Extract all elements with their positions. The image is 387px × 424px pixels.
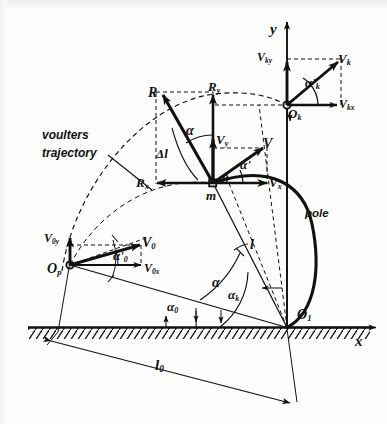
delta-l-label: Δl [156, 147, 168, 160]
length-l0-dimension [47, 329, 297, 403]
x-axis-label: x [355, 334, 363, 349]
initial-velocity-y-label: V0y [44, 232, 59, 245]
pole-curve [213, 176, 316, 328]
velocity-vector-label: V [263, 137, 272, 151]
reaction-vector-label: R [148, 86, 157, 100]
top-velocity-x-label: Vkx [339, 98, 354, 111]
top-velocity-y-label: Vky [257, 51, 272, 64]
mass-point-label: m [206, 189, 216, 202]
takeoff-to-ground-chord [70, 265, 287, 328]
alpha-k-angle-label: αk [228, 288, 239, 303]
y-axis-label: y [270, 22, 277, 37]
trajectory-caption-line2: trajectory [42, 146, 97, 160]
ground-origin-label: O1 [297, 308, 311, 323]
top-point-label: Ok [288, 107, 301, 122]
initial-length-label: l0 [155, 358, 164, 374]
ground-angle-arcs [166, 248, 282, 327]
top-point-group [215, 59, 341, 121]
reaction-x-label: Rx [136, 176, 149, 191]
figure-canvas: y x voulters trajectory pole Op m 0 Ok O… [0, 0, 387, 424]
mass-origin-label: 0 [222, 172, 229, 185]
alpha-k-prime-angle-label: α'k [305, 76, 320, 91]
alpha-0-prime-angle-label: α'0 [113, 249, 128, 264]
velocity-x-label: Vx [269, 176, 282, 191]
initial-velocity-label: V0 [142, 236, 156, 251]
reaction-y-label: Ry [208, 80, 220, 95]
pole-length-label: l [250, 238, 254, 252]
alpha-ground-angle-label: α [212, 276, 220, 290]
trajectory-caption-line1: voulters [42, 128, 89, 142]
alpha-0-angle-label: α0 [167, 300, 178, 315]
ground-line [28, 328, 370, 340]
mass-point-group [156, 92, 267, 186]
pole-caption: pole [305, 207, 329, 219]
velocity-y-label: Vy [216, 133, 228, 148]
alpha-prime-angle-label: α' [240, 158, 251, 171]
initial-velocity-x-label: V0x [144, 262, 159, 275]
top-velocity-label: Vk [338, 52, 351, 67]
takeoff-point-label: Op [47, 262, 61, 277]
alpha-angle-label: α [186, 124, 194, 138]
